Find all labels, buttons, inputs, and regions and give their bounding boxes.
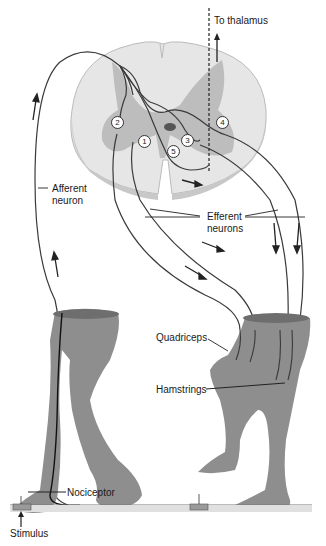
spinal-cord-section xyxy=(71,42,266,200)
label-afferent-line1: Afferent xyxy=(52,183,87,194)
label-efferent-line1: Efferent xyxy=(207,211,242,222)
label-stimulus: Stimulus xyxy=(10,528,48,539)
label-quadriceps: Quadriceps xyxy=(156,332,207,343)
synapse-marker-2: 2 xyxy=(111,116,124,129)
label-efferent-line2: neurons xyxy=(207,223,243,234)
label-afferent-line2: neuron xyxy=(52,195,83,206)
arrow-up-icon xyxy=(214,33,220,40)
label-nociceptor: Nociceptor xyxy=(67,487,115,498)
synapse-marker-4: 4 xyxy=(216,116,229,129)
label-to-thalamus: To thalamus xyxy=(214,15,268,26)
quadriceps-leader xyxy=(208,339,228,351)
reflex-diagram xyxy=(0,0,326,546)
synapse-marker-5: 5 xyxy=(167,145,180,158)
stimulus-pad-left xyxy=(13,504,31,510)
left-legs xyxy=(15,309,142,513)
synapse-marker-1: 1 xyxy=(138,135,151,148)
label-hamstrings: Hamstrings xyxy=(156,384,207,395)
synapse-marker-3: 3 xyxy=(181,134,194,147)
stimulus-pad-right xyxy=(190,504,208,510)
